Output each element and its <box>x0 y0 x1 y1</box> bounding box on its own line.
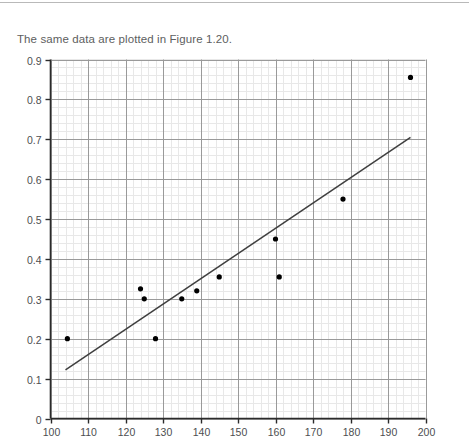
svg-text:0: 0 <box>36 414 42 426</box>
major-gridlines <box>51 60 427 420</box>
svg-text:140: 140 <box>193 426 211 438</box>
svg-text:0.5: 0.5 <box>27 214 42 226</box>
page-top-rule <box>0 2 469 3</box>
svg-text:190: 190 <box>380 426 398 438</box>
svg-text:180: 180 <box>343 426 361 438</box>
scatter-plot-figure: 00.10.20.30.40.50.60.70.80.9 10011012013… <box>0 44 469 438</box>
svg-text:0.1: 0.1 <box>27 374 42 386</box>
svg-text:120: 120 <box>118 426 136 438</box>
svg-text:0.7: 0.7 <box>27 134 42 146</box>
page-root: The same data are plotted in Figure 1.20… <box>0 0 469 438</box>
svg-text:110: 110 <box>80 426 97 438</box>
svg-text:170: 170 <box>305 426 323 438</box>
svg-text:200: 200 <box>418 426 436 438</box>
svg-text:150: 150 <box>230 426 248 438</box>
svg-text:0.6: 0.6 <box>27 174 42 186</box>
svg-text:0.4: 0.4 <box>27 254 42 266</box>
y-axis-tick-labels: 00.10.20.30.40.50.60.70.80.9 <box>27 55 42 426</box>
svg-text:130: 130 <box>155 426 173 438</box>
svg-text:100: 100 <box>43 426 61 438</box>
svg-text:0.9: 0.9 <box>27 55 42 67</box>
svg-text:0.3: 0.3 <box>27 294 42 306</box>
axis-ticks <box>46 61 427 424</box>
scatter-plot-svg: 00.10.20.30.40.50.60.70.80.9 10011012013… <box>0 44 469 438</box>
x-axis-tick-labels: 100110120130140150160170180190200 <box>43 426 436 438</box>
svg-text:160: 160 <box>268 426 286 438</box>
svg-text:0.8: 0.8 <box>27 94 42 106</box>
svg-text:0.2: 0.2 <box>27 334 42 346</box>
